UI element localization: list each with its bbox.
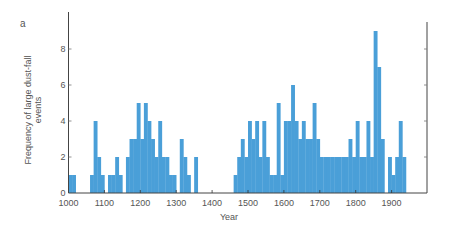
- bar-1740: [334, 157, 338, 193]
- bar-1710: [323, 157, 327, 193]
- bar-1260: [162, 157, 166, 193]
- bar-1610: [287, 121, 291, 193]
- bar-1850: [374, 31, 378, 193]
- bar-1080: [97, 157, 101, 193]
- bar-1330: [187, 175, 191, 193]
- bar-1200: [140, 139, 144, 193]
- bar-1180: [133, 139, 137, 193]
- bar-1630: [295, 121, 299, 193]
- bar-1460: [234, 175, 238, 193]
- bar-1820: [363, 157, 367, 193]
- bar-1720: [327, 157, 331, 193]
- y-tick-label: 8: [60, 44, 65, 54]
- bar-1840: [370, 157, 374, 193]
- y-tick-label: 2: [60, 152, 65, 162]
- bar-1230: [151, 139, 155, 193]
- bar-1070: [94, 121, 98, 193]
- bar-1810: [359, 157, 363, 193]
- bar-1920: [399, 121, 403, 193]
- y-tick-label: 4: [60, 116, 65, 126]
- bar-1320: [183, 157, 187, 193]
- bar-1760: [341, 157, 345, 193]
- bar-1190: [137, 103, 141, 193]
- bar-1790: [352, 157, 356, 193]
- bar-1690: [316, 139, 320, 193]
- bar-1780: [349, 139, 353, 193]
- x-tick-label: 1300: [166, 198, 186, 208]
- bar-1650: [302, 121, 306, 193]
- bar-1580: [277, 103, 281, 193]
- bar-1210: [144, 103, 148, 193]
- bar-1680: [313, 103, 317, 193]
- bar-1670: [309, 139, 313, 193]
- bar-1750: [338, 157, 342, 193]
- bar-1830: [366, 121, 370, 193]
- bar-1140: [119, 175, 123, 193]
- bar-1770: [345, 157, 349, 193]
- bar-1860: [377, 67, 381, 193]
- bar-1530: [259, 157, 263, 193]
- bar-1910: [395, 157, 399, 193]
- bar-1120: [112, 175, 116, 193]
- bar-1280: [169, 175, 173, 193]
- bar-1730: [331, 157, 335, 193]
- x-tick-label: 1800: [346, 198, 366, 208]
- bar-1270: [165, 157, 169, 193]
- bar-1160: [126, 157, 130, 193]
- bar-1500: [248, 121, 252, 193]
- x-tick-label: 1000: [58, 198, 78, 208]
- x-tick-label: 1700: [310, 198, 330, 208]
- x-tick-label: 1600: [274, 198, 294, 208]
- bar-1490: [244, 157, 248, 193]
- y-tick-label: 6: [60, 80, 65, 90]
- bar-1660: [305, 139, 309, 193]
- bar-1550: [266, 157, 270, 193]
- bar-1470: [237, 157, 241, 193]
- bar-1890: [388, 157, 392, 193]
- bar-1700: [320, 157, 324, 193]
- bar-1520: [255, 121, 259, 193]
- bar-1220: [147, 121, 151, 193]
- bar-1600: [284, 121, 288, 193]
- bar-1110: [108, 175, 112, 193]
- x-tick-label: 1100: [95, 198, 114, 208]
- bar-1510: [252, 139, 256, 193]
- bar-1010: [72, 175, 76, 193]
- bar-1640: [298, 139, 302, 193]
- bar-1560: [270, 175, 274, 193]
- x-tick-label: 1900: [382, 198, 402, 208]
- bar-1930: [402, 157, 406, 193]
- bar-1000: [69, 175, 73, 193]
- y-tick-label: 0: [60, 188, 65, 198]
- bar-1870: [381, 139, 385, 193]
- histogram-chart: 0246810001100120013001400150016001700180…: [0, 0, 450, 234]
- bar-1480: [241, 139, 245, 193]
- bar-1060: [90, 175, 94, 193]
- bar-1800: [356, 121, 360, 193]
- bar-1250: [158, 121, 162, 193]
- bar-1240: [155, 157, 159, 193]
- x-tick-label: 1500: [238, 198, 258, 208]
- bar-1350: [194, 157, 198, 193]
- bar-1620: [291, 85, 295, 193]
- bars: [69, 31, 407, 193]
- bar-1310: [180, 139, 184, 193]
- bar-1170: [130, 139, 134, 193]
- x-tick-label: 1400: [202, 198, 222, 208]
- bar-1130: [115, 157, 119, 193]
- bar-1540: [262, 121, 266, 193]
- x-tick-label: 1200: [130, 198, 150, 208]
- bar-1570: [273, 175, 277, 193]
- bar-1900: [392, 175, 396, 193]
